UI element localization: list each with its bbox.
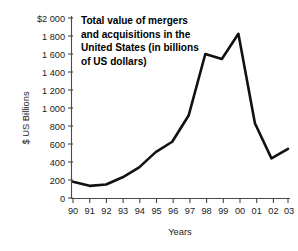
y-tick-label-2000: $2 000	[37, 14, 65, 24]
y-tick-label-1800: 1 800	[42, 32, 65, 42]
y-tick-label-1400: 1 400	[42, 68, 65, 78]
y-tick-label-600: 600	[50, 140, 65, 150]
x-axis-tick-labels: 90 91 92 93 94 95 96 97 98 99 00 01 02 0…	[68, 206, 294, 216]
x-tick-label-97: 97	[185, 206, 195, 216]
chart-title: Total value of mergers and acquisitions …	[81, 15, 199, 67]
y-tick-label-1000: 1 000	[42, 104, 65, 114]
x-tick-label-94: 94	[135, 206, 145, 216]
chart-title-line-4: of US dollars)	[81, 56, 147, 67]
y-tick-label-0: 0	[60, 194, 65, 204]
x-tick-label-03: 03	[284, 206, 294, 216]
y-axis-tick-marks	[68, 18, 73, 198]
y-tick-label-800: 800	[50, 122, 65, 132]
y-tick-label-1200: 1 200	[42, 86, 65, 96]
x-tick-label-95: 95	[151, 206, 161, 216]
x-tick-label-00: 00	[235, 206, 245, 216]
chart-title-line-2: and acquisitions in the	[81, 29, 191, 40]
chart-title-line-1: Total value of mergers	[81, 15, 188, 26]
y-tick-label-1600: 1 600	[42, 50, 65, 60]
line-chart: $2 000 1 800 1 600 1 400 1 200 1 000 800…	[0, 0, 298, 251]
x-tick-label-91: 91	[85, 206, 95, 216]
x-tick-label-96: 96	[168, 206, 178, 216]
y-tick-label-400: 400	[50, 158, 65, 168]
x-tick-label-98: 98	[201, 206, 211, 216]
y-axis-title: $ US Billions	[20, 91, 31, 144]
x-axis-title: Years	[168, 226, 192, 237]
x-tick-label-93: 93	[118, 206, 128, 216]
y-axis-tick-labels: $2 000 1 800 1 600 1 400 1 200 1 000 800…	[37, 14, 65, 204]
x-tick-label-01: 01	[252, 206, 262, 216]
x-tick-label-02: 02	[268, 206, 278, 216]
x-tick-label-99: 99	[218, 206, 228, 216]
chart-container: $2 000 1 800 1 600 1 400 1 200 1 000 800…	[0, 0, 298, 251]
x-tick-label-90: 90	[68, 206, 78, 216]
x-tick-label-92: 92	[101, 206, 111, 216]
chart-title-line-3: United States (in billions	[81, 42, 199, 53]
y-tick-label-200: 200	[50, 176, 65, 186]
x-axis-tick-marks	[73, 199, 288, 204]
